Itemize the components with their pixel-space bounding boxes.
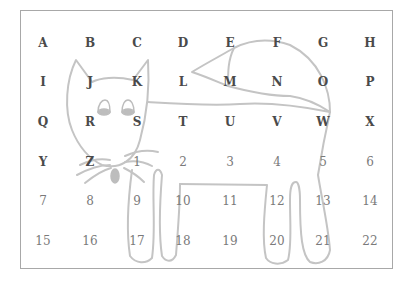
grid-letter: S: [122, 115, 152, 129]
grid-letter: G: [308, 36, 338, 50]
grid-number: 21: [308, 234, 338, 248]
grid-letter: P: [355, 75, 385, 89]
grid-letter: M: [215, 75, 245, 89]
grid-number: 20: [262, 234, 292, 248]
grid-letter: D: [168, 36, 198, 50]
grid-letter: Q: [28, 115, 58, 129]
grid-number: 3: [215, 155, 245, 169]
grid-letter: J: [75, 75, 105, 89]
grid-number: 11: [215, 194, 245, 208]
grid-number: 18: [168, 234, 198, 248]
grid-number: 15: [28, 234, 58, 248]
grid-letter: E: [215, 36, 245, 50]
grid-letter: K: [122, 75, 152, 89]
grid-number: 14: [355, 194, 385, 208]
grid-letter: L: [168, 75, 198, 89]
grid-number: 12: [262, 194, 292, 208]
grid-number: 4: [262, 155, 292, 169]
grid-number: 7: [28, 194, 58, 208]
grid-letter: R: [75, 115, 105, 129]
grid-letter: H: [355, 36, 385, 50]
grid-letter: F: [262, 36, 292, 50]
grid-number: 17: [122, 234, 152, 248]
grid-number: 2: [168, 155, 198, 169]
grid-number: 1: [122, 155, 152, 169]
grid-letter: Z: [75, 155, 105, 169]
grid-number: 13: [308, 194, 338, 208]
grid-number: 8: [75, 194, 105, 208]
grid-letter: O: [308, 75, 338, 89]
grid-number: 22: [355, 234, 385, 248]
grid-letter: N: [262, 75, 292, 89]
grid-number: 10: [168, 194, 198, 208]
grid-letter: Y: [28, 155, 58, 169]
grid-number: 16: [75, 234, 105, 248]
grid-letter: A: [28, 36, 58, 50]
cat-outline-icon: [0, 0, 410, 283]
grid-letter: C: [122, 36, 152, 50]
grid-number: 9: [122, 194, 152, 208]
grid-letter: X: [355, 115, 385, 129]
grid-number: 6: [355, 155, 385, 169]
grid-letter: I: [28, 75, 58, 89]
grid-letter: B: [75, 36, 105, 50]
grid-letter: U: [215, 115, 245, 129]
grid-letter: W: [308, 115, 338, 129]
grid-letter: T: [168, 115, 198, 129]
grid-letter: V: [262, 115, 292, 129]
grid-number: 19: [215, 234, 245, 248]
grid-number: 5: [308, 155, 338, 169]
